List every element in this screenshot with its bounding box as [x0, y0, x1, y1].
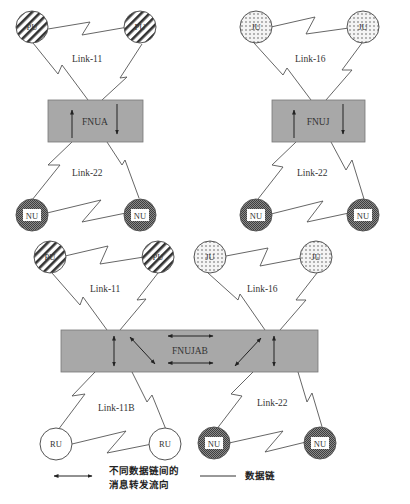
- legend-arrow-label-line1: 不同数据链间的: [109, 465, 179, 476]
- link-wire: [280, 273, 317, 330]
- nu-node: NU: [240, 199, 272, 231]
- link-wire: [120, 273, 158, 330]
- link-wire: [132, 372, 167, 432]
- node-label: NU: [26, 211, 38, 221]
- nu-node: NU: [198, 427, 230, 459]
- node-label: RU: [159, 439, 171, 449]
- ju-node: JU: [240, 11, 272, 43]
- gateway-label: FNUJ: [307, 117, 330, 127]
- node-label: PU: [45, 252, 56, 262]
- nu-node: NU: [16, 199, 48, 231]
- link-wire: [32, 142, 72, 200]
- node-label: JU: [251, 22, 260, 32]
- link-label: Link-16: [295, 54, 326, 64]
- node-label: PU: [153, 252, 164, 262]
- gateway-box: FNUJ: [272, 100, 365, 142]
- pu-node: PU: [34, 241, 66, 273]
- link-wire: [229, 431, 306, 452]
- node-label: PU: [27, 22, 38, 32]
- link-label: Link-11B: [98, 403, 135, 413]
- ju-node: JU: [194, 241, 226, 273]
- link-label: Link-22: [297, 168, 328, 178]
- link-wire: [48, 22, 128, 35]
- legend: 不同数据链间的 消息转发流向 数据链: [54, 465, 275, 490]
- link-label: Link-22: [257, 398, 288, 408]
- link-label: Link-16: [247, 284, 278, 294]
- link-wire: [271, 17, 349, 34]
- link-wire: [326, 43, 362, 100]
- ru-node: RU: [149, 428, 181, 460]
- link-wire: [271, 201, 349, 222]
- link-wire: [298, 372, 323, 430]
- link-wire: [65, 246, 144, 264]
- link-label: Link-22: [72, 168, 103, 178]
- top-right-network: JU JU Link-16 FNUJ Link-22 NU NU: [240, 11, 379, 231]
- bottom-network: Link-11 Link-16 PU JU PU JU JU: [34, 241, 336, 460]
- node-label: NU: [208, 439, 220, 449]
- node-label: RU: [50, 439, 62, 449]
- link-wire: [208, 273, 265, 330]
- link-label: Link-11: [90, 284, 121, 294]
- link-label: Link-11: [72, 54, 103, 64]
- node-label: NU: [314, 439, 326, 449]
- top-left-network: PU PU Link-11 FNUA Link-22 NU NU: [16, 11, 156, 231]
- link-wire: [258, 142, 296, 199]
- gateway-box: FNUA: [48, 100, 143, 142]
- pu-node: PU: [16, 11, 48, 43]
- node-label: JU: [358, 22, 367, 32]
- link-wire: [331, 142, 364, 199]
- gateway-label: FNUJAB: [172, 346, 208, 356]
- ru-node: RU: [40, 428, 72, 460]
- pu-node: PU: [124, 11, 156, 43]
- link-wire: [254, 43, 311, 100]
- link-wire: [58, 372, 95, 430]
- nu-node: NU: [124, 199, 156, 231]
- node-label: NU: [250, 211, 262, 221]
- legend-line-label: 数据链: [244, 470, 275, 481]
- link-wire: [52, 273, 107, 330]
- data-link-gateway-diagram: PU PU Link-11 FNUA Link-22 NU NU: [0, 0, 410, 504]
- link-wire: [102, 44, 142, 100]
- legend-arrow-label-line2: 消息转发流向: [109, 479, 169, 490]
- nu-node: NU: [347, 199, 379, 231]
- pu-node: JU PU: [142, 241, 174, 273]
- gateway-label: FNUA: [82, 117, 108, 127]
- link-wire: [47, 200, 126, 222]
- ju-node: JU: [347, 11, 379, 43]
- gateway-box: FNUJAB: [61, 330, 318, 372]
- link-wire: [216, 372, 253, 430]
- nu-node: NU: [304, 427, 336, 459]
- link-wire: [33, 43, 88, 100]
- ju-node: JU: [300, 241, 332, 273]
- node-label: PU: [135, 22, 146, 32]
- link-wire: [226, 248, 302, 266]
- node-label: JU: [205, 252, 214, 262]
- link-wire: [107, 142, 139, 198]
- node-label: NU: [357, 211, 369, 221]
- link-wire: [72, 431, 152, 453]
- node-label: JU: [311, 252, 320, 262]
- node-label: NU: [134, 211, 146, 221]
